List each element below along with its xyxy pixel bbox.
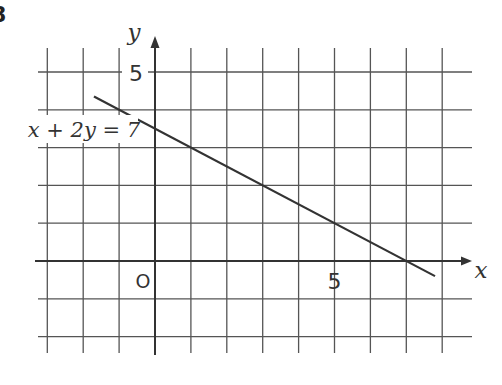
y-axis-label: y	[127, 19, 142, 45]
x-axis-arrow-icon	[461, 257, 472, 266]
x-axis-label: x	[475, 257, 488, 283]
y-tick-label: 5	[129, 61, 143, 86]
x-tick-label: 5	[328, 269, 342, 294]
origin-label: O	[136, 270, 151, 292]
plot-line	[94, 97, 435, 277]
coordinate-graph: 55Oxyx + 2y = 7	[0, 0, 502, 385]
vertical-gridlines	[47, 48, 442, 353]
equation-label: x + 2y = 7	[28, 118, 141, 142]
y-axis-arrow-icon	[151, 36, 160, 48]
labels: 55Oxyx + 2y = 7	[28, 19, 488, 294]
series-line-0	[94, 97, 435, 277]
